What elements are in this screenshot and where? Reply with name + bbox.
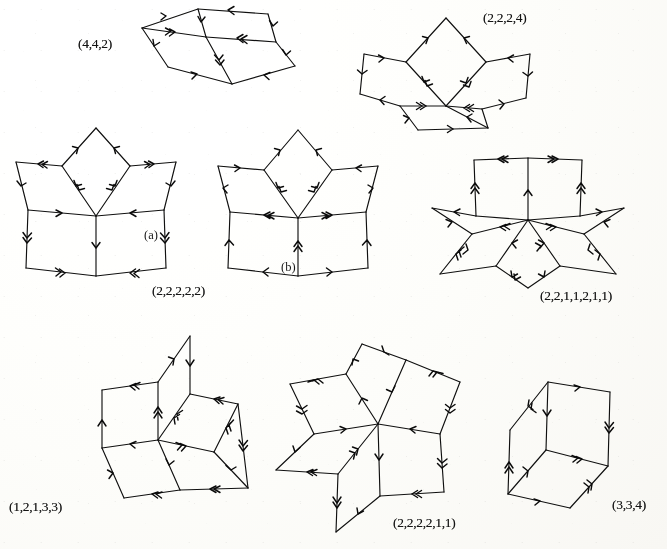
figure-442 — [140, 4, 315, 94]
edge-ticks-12133 — [98, 357, 248, 498]
edge-ticks-2224 — [358, 37, 533, 133]
edge-ticks-334 — [505, 385, 614, 505]
figure-2211211 — [428, 140, 628, 290]
tiling-edges-442 — [142, 9, 295, 84]
figure-2224 — [358, 10, 563, 135]
edge-ticks-222211 — [293, 346, 455, 514]
label-442: (4,4,2) — [78, 36, 112, 52]
label-22222: (2,2,2,2,2) — [152, 283, 205, 299]
tiling-edges-22222b — [218, 130, 378, 276]
figure-12133 — [80, 332, 280, 517]
label-222211: (2,2,2,2,1,1) — [393, 515, 455, 531]
figure-334 — [500, 360, 630, 510]
sub-label-b: (b) — [281, 260, 296, 275]
tiling-edges-2224 — [360, 18, 530, 130]
tiling-edges-22222a — [16, 128, 176, 276]
figure-22222-b — [210, 128, 390, 283]
figure-sheet: (4,4,2) — [0, 0, 667, 549]
label-2211211: (2,2,1,1,2,1,1) — [540, 288, 612, 304]
sub-label-a: (a) — [144, 228, 158, 243]
label-334: (3,3,4) — [612, 497, 646, 513]
figure-222211 — [274, 340, 489, 535]
label-2224: (2,2,2,4) — [483, 10, 526, 26]
tiling-edges-2211211 — [432, 158, 624, 288]
figure-22222-a — [8, 124, 188, 284]
label-12133: (1,2,1,3,3) — [9, 499, 62, 515]
tiling-edges-334 — [508, 382, 610, 508]
